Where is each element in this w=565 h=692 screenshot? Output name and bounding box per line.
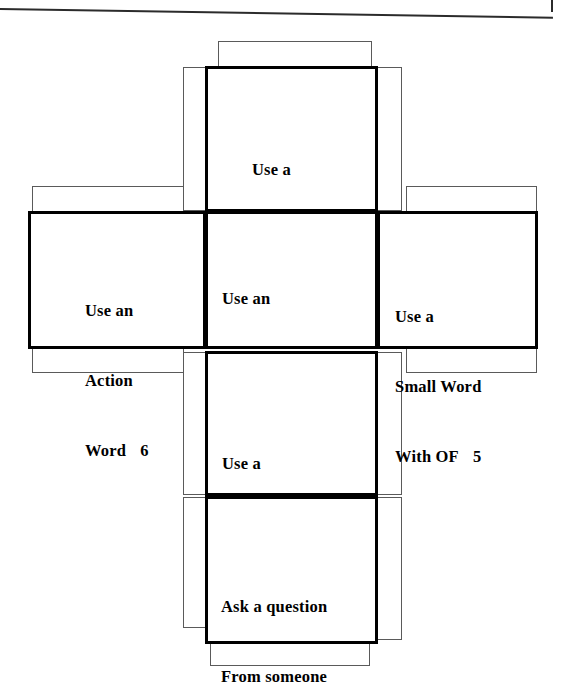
face-right-line-2: Small Word (395, 375, 482, 398)
face-right-line-3: With OF5 (395, 445, 482, 468)
tab-top (218, 41, 372, 68)
face-top-line-1: Use a (252, 158, 316, 181)
face-right-line-1: Use a (395, 305, 482, 328)
face-right-number: 5 (473, 445, 481, 468)
tab-right-above (406, 186, 537, 213)
face-left-line-2: Action (85, 369, 149, 392)
face-lower-line-1: Use a (222, 452, 309, 475)
cube-face-bottom-text: Ask a question From someone Using IN4 (221, 548, 327, 692)
face-bottom-line-2: From someone (221, 665, 327, 688)
cube-face-right-text: Use a Small Word With OF5 (395, 258, 482, 516)
tab-bottom-right (374, 497, 402, 640)
face-center-line-1: Use an (222, 287, 298, 310)
page-edge-line (0, 8, 553, 19)
page-edge-corner (551, 0, 553, 12)
tab-top-right (374, 67, 402, 211)
face-left-number: 6 (140, 439, 148, 462)
cube-face-left-text: Use an Action Word6 (85, 252, 149, 510)
face-left-line-1: Use an (85, 299, 149, 322)
cube-net-diagram: Use a Time Word1 Use an Action Word6 Use… (0, 0, 565, 692)
tab-left-above (32, 186, 184, 213)
face-left-line-3: Word6 (85, 439, 149, 462)
face-bottom-line-1: Ask a question (221, 595, 327, 618)
